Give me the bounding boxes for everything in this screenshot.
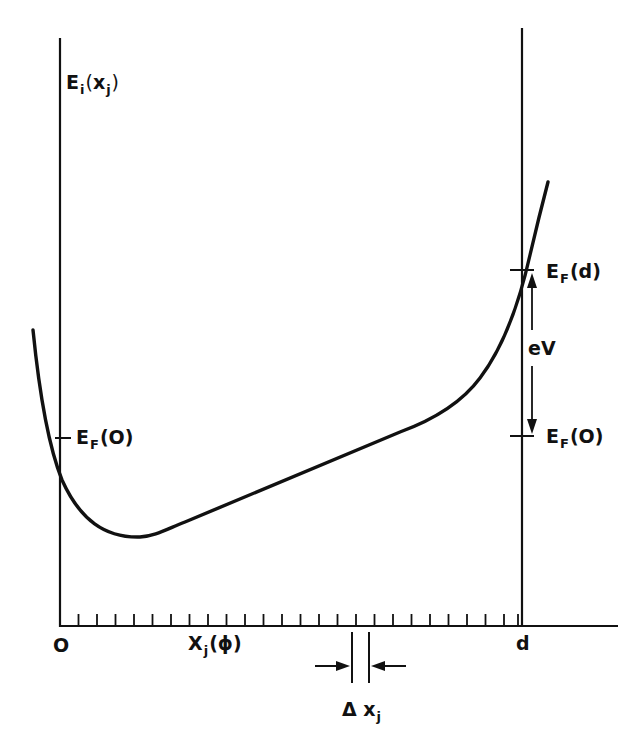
- left-fermi-label: EF(O): [76, 428, 133, 451]
- x-axis-origin-label: O: [53, 636, 69, 655]
- right-fermi-top-label: EF(d): [546, 262, 601, 285]
- right-fermi-bottom-label: EF(O): [546, 427, 603, 450]
- x-axis-label: Xj(ϕ): [188, 634, 242, 657]
- y-label-open: (: [85, 71, 92, 93]
- left-fermi-sub: F: [90, 437, 99, 452]
- delta-label-main: Δ x: [342, 698, 376, 720]
- y-label-arg-sub: j: [106, 82, 110, 97]
- y-label-main: E: [66, 71, 79, 93]
- voltage-label: eV: [528, 339, 556, 358]
- y-axis-label: Ei(xj): [66, 73, 119, 96]
- left-fermi-arg: (O): [100, 426, 134, 448]
- delta-x-label: Δ xj: [342, 700, 382, 723]
- right-fermi-top-sub: F: [560, 271, 569, 286]
- right-fermi-bottom-sub: F: [560, 436, 569, 451]
- right-fermi-top-main: E: [546, 260, 559, 282]
- energy-curve: [33, 182, 548, 537]
- right-fermi-bottom-arg: (O): [570, 425, 604, 447]
- y-label-sub: i: [80, 82, 84, 97]
- y-label-arg: x: [93, 71, 105, 93]
- right-fermi-top-arg: (d): [570, 260, 601, 282]
- delta-label-sub: j: [377, 709, 381, 724]
- delta-x-marker: [315, 632, 406, 683]
- x-label-sub: j: [204, 643, 208, 658]
- y-label-close: ): [112, 71, 119, 93]
- left-fermi-main: E: [76, 426, 89, 448]
- right-fermi-bottom-main: E: [546, 425, 559, 447]
- x-label-main: X: [188, 632, 203, 654]
- energy-band-diagram: [0, 0, 644, 739]
- x-axis-ticks: [79, 614, 519, 626]
- x-axis-end-label: d: [516, 634, 530, 653]
- x-label-arg: (ϕ): [209, 632, 242, 654]
